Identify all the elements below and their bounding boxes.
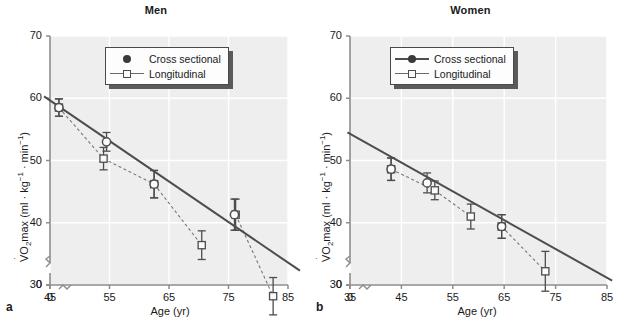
legend: Cross sectionalLongitudinal (390, 47, 514, 85)
x-tick-label: 45 (386, 291, 416, 303)
cross-sectional-marker (423, 179, 431, 187)
longitudinal-marker (467, 213, 474, 220)
longitudinal-marker (198, 242, 205, 249)
x-tick-label: 85 (273, 291, 303, 303)
x-tick-label: 65 (489, 291, 519, 303)
cross-sectional-marker (55, 103, 63, 111)
x-tick-label: 55 (95, 291, 125, 303)
cross-sectional-marker (102, 138, 110, 146)
legend-row-cross-sectional: Cross sectional (110, 51, 221, 66)
longitudinal-marker (542, 268, 549, 275)
x-tick-label: 55 (438, 291, 468, 303)
y-tick-label: 30 (18, 278, 42, 290)
legend-label-cross-sectional: Cross sectional (434, 53, 506, 65)
y-tick-label: 60 (318, 91, 342, 103)
longitudinal-marker (100, 155, 107, 162)
y-tick-label: 50 (318, 154, 342, 166)
y-tick-label: 30 (318, 278, 342, 290)
legend-label-longitudinal: Longitudinal (149, 68, 206, 80)
cross-sectional-marker (150, 180, 158, 188)
legend-label-cross-sectional: Cross sectional (149, 53, 221, 65)
legend-cross-sectional-icon (110, 53, 144, 65)
legend-longitudinal-icon (110, 68, 144, 80)
x-tick-label: 75 (541, 291, 571, 303)
legend-row-longitudinal: Longitudinal (395, 66, 506, 81)
legend-row-cross-sectional: Cross sectional (395, 51, 506, 66)
x-tick-label: 65 (154, 291, 184, 303)
legend: Cross sectionalLongitudinal (105, 47, 229, 85)
legend-row-longitudinal: Longitudinal (110, 66, 221, 81)
chart-panel-women: Women b V̇O2max (ml · kg−1 · min−1) Age … (312, 0, 629, 324)
cross-sectional-marker (230, 211, 238, 219)
cross-sectional-marker (498, 222, 506, 230)
legend-label-longitudinal: Longitudinal (434, 68, 491, 80)
y-tick-label: 40 (18, 216, 42, 228)
y-tick-label: 60 (18, 91, 42, 103)
y-tick-label: 50 (18, 154, 42, 166)
x-tick-label: 35 (335, 291, 365, 303)
y-tick-label: 70 (18, 29, 42, 41)
cross-sectional-marker (387, 165, 395, 173)
x-tick-label: 85 (592, 291, 622, 303)
x-tick-label: 45 (35, 291, 65, 303)
y-tick-label: 70 (318, 29, 342, 41)
chart-panel-men: Men a V̇O2max (ml · kg−1 · min−1) Age (y… (0, 0, 312, 324)
y-tick-label: 40 (318, 216, 342, 228)
legend-cross-sectional-icon (395, 53, 429, 65)
x-tick-label: 75 (214, 291, 244, 303)
longitudinal-marker (431, 187, 438, 194)
legend-longitudinal-icon (395, 68, 429, 80)
